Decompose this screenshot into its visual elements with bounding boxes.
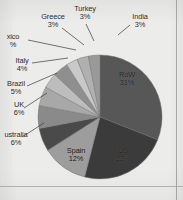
slice-label-uk: UK 6% xyxy=(4,101,34,117)
slice-label-brazil: Brazil 5% xyxy=(0,80,33,96)
slice-label-spain: Spain 12% xyxy=(58,147,94,163)
slice-label-italy: Italy 4% xyxy=(6,57,38,73)
pie-chart-plot xyxy=(0,0,183,200)
slice-label-turkey: Turkey 3% xyxy=(62,5,108,21)
leader-greece xyxy=(62,28,84,45)
leader-turkey xyxy=(86,24,94,41)
chart-page: Greece 3% Turkey 3% India 3% xico % Ital… xyxy=(0,0,183,200)
slice-label-india: India 3% xyxy=(118,13,162,29)
slice-label-us: US 23% xyxy=(107,147,139,163)
slice-label-australia: ustralia 6% xyxy=(0,131,36,147)
slice-label-row: RoW 31% xyxy=(110,71,144,87)
leader-mexico xyxy=(28,40,76,50)
slice-label-mexico: xico % xyxy=(0,33,28,49)
